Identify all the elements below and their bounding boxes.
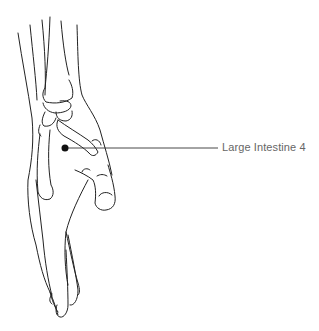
acupoint-label: Large Intestine 4	[222, 141, 306, 153]
forearm-outline	[18, 33, 58, 315]
acupoint-marker	[62, 145, 69, 152]
index-metacarpal	[37, 130, 53, 200]
hand-illustration	[0, 0, 319, 331]
thumb	[75, 165, 115, 210]
